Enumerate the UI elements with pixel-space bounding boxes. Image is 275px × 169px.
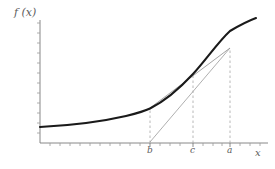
x-tick-label-c: c bbox=[190, 146, 195, 155]
y-axis-label: f (x) bbox=[14, 7, 36, 18]
function-curve bbox=[40, 18, 256, 127]
plot-svg bbox=[0, 0, 275, 169]
chord-line-lower bbox=[150, 48, 230, 142]
figure-canvas: f (x) x b c a bbox=[0, 0, 275, 169]
x-axis-label: x bbox=[255, 148, 261, 158]
x-tick-label-b: b bbox=[147, 146, 153, 155]
x-tick-label-a: a bbox=[227, 146, 232, 155]
